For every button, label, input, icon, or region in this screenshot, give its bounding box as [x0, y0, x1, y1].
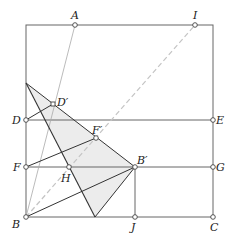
label-G: G — [216, 161, 225, 174]
point-H — [67, 165, 72, 170]
point-J — [133, 215, 138, 220]
label-B: B — [11, 218, 20, 231]
label-Fprime: F′ — [91, 124, 103, 137]
point-A — [73, 23, 78, 28]
fold-diagram: A I D E F G B J C B′ H F′ D′ — [0, 0, 233, 241]
label-D: D — [11, 114, 21, 127]
point-G — [211, 165, 216, 170]
point-Dprime — [51, 102, 55, 106]
point-I — [193, 23, 198, 28]
label-A: A — [70, 9, 79, 22]
label-Bprime: B′ — [136, 154, 148, 167]
label-F: F — [12, 161, 21, 174]
label-J: J — [129, 221, 136, 234]
label-H: H — [60, 172, 71, 185]
point-E — [211, 118, 216, 123]
point-D — [24, 118, 29, 123]
point-B — [24, 215, 29, 220]
shaded-folded-region — [26, 83, 135, 217]
label-Dprime: D′ — [56, 96, 69, 109]
point-F — [24, 165, 29, 170]
point-C — [211, 215, 216, 220]
label-E: E — [215, 114, 224, 127]
label-C: C — [210, 221, 219, 234]
label-I: I — [192, 9, 198, 22]
